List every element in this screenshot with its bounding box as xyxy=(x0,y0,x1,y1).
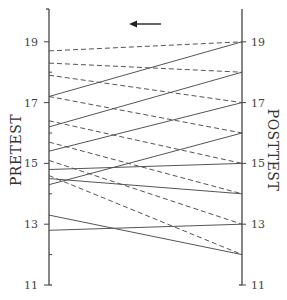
posttest-tick-label: 17 xyxy=(251,97,265,110)
posttest-tick-label: 13 xyxy=(251,218,265,231)
direction-arrow-icon xyxy=(129,21,161,28)
pair-line-10 xyxy=(49,72,242,127)
pretest-tick-label: 11 xyxy=(24,279,38,292)
posttest-axis-title: POSTTEST xyxy=(265,109,281,192)
slopegraph-chart: 11111313151517171919 PRETEST POSTTEST xyxy=(0,0,287,300)
pair-line-3 xyxy=(49,75,242,102)
pretest-tick-label: 17 xyxy=(24,97,38,110)
posttest-tick-label: 11 xyxy=(251,279,265,292)
pair-line-12 xyxy=(49,133,242,185)
pair-line-4 xyxy=(49,97,242,134)
pretest-tick-label: 15 xyxy=(24,157,38,170)
pretest-axis-title: PRETEST xyxy=(8,114,24,186)
pair-lines xyxy=(49,42,242,255)
pretest-tick-label: 19 xyxy=(24,36,38,49)
pair-line-11 xyxy=(49,103,242,152)
pair-line-13 xyxy=(49,163,242,169)
posttest-tick-label: 15 xyxy=(251,157,265,170)
pretest-tick-label: 13 xyxy=(24,218,38,231)
posttest-tick-label: 19 xyxy=(251,36,265,49)
pair-line-16 xyxy=(49,215,242,255)
pair-line-15 xyxy=(49,224,242,230)
pair-line-2 xyxy=(49,63,242,72)
